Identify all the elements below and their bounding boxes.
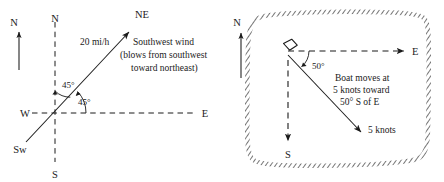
right-reference-north-label: N	[233, 17, 241, 28]
right-vector-magnitude-label: 5 knots	[368, 125, 396, 135]
left-angle-label-north: 45°	[62, 80, 75, 90]
right-axis-label-south: S	[285, 149, 291, 160]
southwest-wind-vector	[26, 32, 129, 142]
figure-root: N N S W E NE Sw 20 mi/h 45° 45° Southwes…	[0, 0, 444, 182]
right-caption-line-3: 50° S of E	[340, 97, 380, 107]
left-angle-arc-east-tick	[76, 92, 81, 97]
left-reference-north-label: N	[10, 17, 18, 28]
right-caption-line-1: Boat moves at	[335, 73, 390, 83]
left-vector-tail-label: Sw	[13, 144, 27, 155]
right-caption-line-2: 5 knots toward	[333, 85, 390, 95]
left-axis-label-east: E	[202, 108, 208, 119]
left-caption-line-1: Southwest wind	[133, 37, 194, 47]
left-caption-line-2: (blows from southwest	[120, 50, 207, 61]
figure-canvas: N N S W E NE Sw 20 mi/h 45° 45° Southwes…	[0, 0, 444, 182]
left-axis-label-south: S	[52, 169, 58, 180]
right-axis-label-east: E	[412, 46, 418, 57]
right-diagram-group: N E S 50°	[233, 10, 431, 168]
left-axis-label-west: W	[20, 108, 30, 119]
left-diagram-group: N N S W E NE Sw 20 mi/h 45° 45° Southwes…	[10, 9, 208, 180]
left-angle-arc-north	[55, 91, 70, 97]
left-vector-tip-label: NE	[135, 9, 149, 20]
left-vector-magnitude-label: 20 mi/h	[80, 37, 110, 47]
left-caption-line-3: toward northeast)	[131, 63, 198, 74]
right-angle-label: 50°	[312, 61, 325, 71]
left-angle-label-east: 45°	[78, 97, 91, 107]
left-axis-label-north: N	[51, 13, 59, 24]
